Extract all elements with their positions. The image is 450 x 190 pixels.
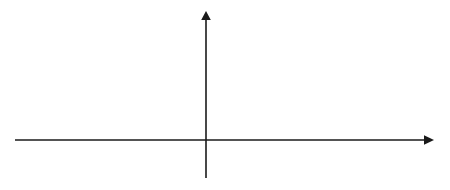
figure-canvas bbox=[0, 0, 450, 190]
x-axis bbox=[15, 135, 434, 145]
x-axis-arrowhead bbox=[424, 135, 434, 145]
y-axis-arrowhead bbox=[201, 11, 211, 20]
pulse-train-plot bbox=[0, 0, 450, 190]
y-axis bbox=[201, 11, 211, 178]
